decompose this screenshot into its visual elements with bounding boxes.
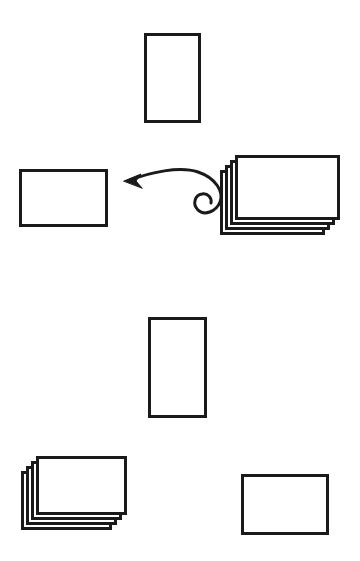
- diagram-canvas: [0, 0, 360, 561]
- middle-right-card-stack: [235, 155, 340, 220]
- arrow-head: [124, 174, 142, 188]
- top-single-card: [144, 33, 201, 123]
- stacked-card: [235, 155, 340, 220]
- card: [241, 474, 329, 535]
- arrow-curve-path: [128, 170, 221, 213]
- curly-arrow: [124, 170, 221, 213]
- middle-left-single-card: [19, 169, 108, 227]
- bottom-left-card-stack: [36, 456, 127, 515]
- bottom-right-single-card: [241, 474, 329, 535]
- lower-middle-single-card: [148, 317, 207, 418]
- stacked-card: [36, 456, 127, 515]
- card: [19, 169, 108, 227]
- card: [144, 33, 201, 123]
- card: [148, 317, 207, 418]
